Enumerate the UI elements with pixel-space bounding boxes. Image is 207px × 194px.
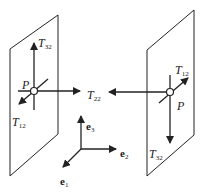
right-t32-label: T32 bbox=[149, 145, 163, 162]
right-t12-label: T12 bbox=[175, 61, 189, 78]
left-t12-label: T12 bbox=[12, 113, 26, 130]
stress-diagram: T32 P T12 T22 T12 P T32 e3 e2 e1 bbox=[0, 0, 207, 194]
e2-label: e2 bbox=[120, 144, 128, 161]
diagram-graphics bbox=[0, 0, 207, 194]
t22-label: T22 bbox=[87, 86, 101, 103]
right-point-p bbox=[167, 89, 174, 96]
axis-e1-arrow bbox=[63, 149, 81, 167]
right-p-label: P bbox=[177, 97, 184, 113]
left-t32-label: T32 bbox=[38, 34, 52, 51]
e1-label: e1 bbox=[60, 172, 68, 189]
e3-label: e3 bbox=[86, 117, 94, 134]
left-p-label: P bbox=[22, 76, 29, 92]
left-point-p bbox=[31, 88, 38, 95]
